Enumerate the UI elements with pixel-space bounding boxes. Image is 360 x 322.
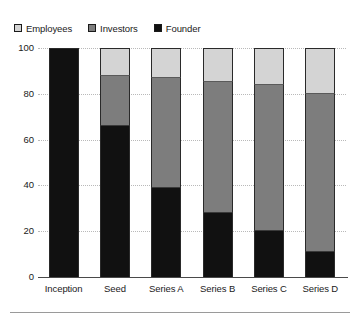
x-axis: Inception Seed Series A Series B Series … [38,283,346,295]
legend-label-investors: Investors [100,23,138,34]
square-swatch-icon [14,24,22,32]
bar-stack [100,48,130,277]
y-tick-label-40: 40 [4,180,34,190]
bar-segment-founder [49,48,79,277]
bar-segment-founder [151,188,181,277]
footer-divider [10,312,350,313]
legend-label-founder: Founder [166,23,201,34]
bar-column-inception[interactable] [38,48,89,277]
bar-column-series-a[interactable] [141,48,192,277]
bar-series-group [38,48,346,277]
x-tick-label-series-d: Series D [295,283,346,295]
y-tick-label-60: 60 [4,135,34,145]
bar-segment-founder [100,126,130,277]
bar-stack [305,48,335,277]
y-tick-label-80: 80 [4,89,34,99]
x-tick-label-series-c: Series C [243,283,294,295]
chart-legend: Employees Investors Founder [14,21,200,35]
bar-segment-investors [203,82,233,213]
bar-segment-founder [254,231,284,277]
square-swatch-icon [88,24,96,32]
bar-segment-employees [305,48,335,94]
bar-segment-investors [100,76,130,126]
bar-stack [254,48,284,277]
square-swatch-icon [154,24,162,32]
bar-stack [49,48,79,277]
legend-label-employees: Employees [26,23,72,34]
bar-column-series-c[interactable] [243,48,294,277]
legend-item-employees[interactable]: Employees [14,23,72,34]
y-axis: 100 80 60 40 20 0 [0,48,34,277]
bar-segment-founder [305,252,335,277]
legend-item-founder[interactable]: Founder [154,23,201,34]
bar-column-series-d[interactable] [295,48,346,277]
bar-stack [203,48,233,277]
x-tick-label-inception: Inception [38,283,89,295]
bar-segment-investors [254,85,284,232]
bar-segment-employees [203,48,233,82]
bar-stack [151,48,181,277]
bar-segment-investors [151,78,181,188]
stacked-bar-chart: Employees Investors Founder 100 80 60 40… [0,0,360,322]
y-tick-label-20: 20 [4,226,34,236]
bar-column-series-b[interactable] [192,48,243,277]
y-tick-label-100: 100 [4,43,34,53]
bar-segment-employees [151,48,181,78]
bar-segment-employees [100,48,130,75]
legend-item-investors[interactable]: Investors [88,23,138,34]
x-tick-label-series-b: Series B [192,283,243,295]
bar-segment-founder [203,213,233,277]
bar-segment-employees [254,48,284,85]
x-tick-label-seed: Seed [89,283,140,295]
bar-segment-investors [305,94,335,252]
x-tick-label-series-a: Series A [141,283,192,295]
x-axis-line [38,277,348,278]
bar-column-seed[interactable] [89,48,140,277]
y-tick-label-0: 0 [4,272,34,282]
